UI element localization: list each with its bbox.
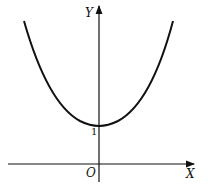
origin-label: O [86,167,96,179]
y-intercept-label: 1 [91,127,97,137]
y-axis-label: Y [85,7,93,19]
x-axis-label: X [186,168,195,180]
graph-canvas [0,0,209,187]
